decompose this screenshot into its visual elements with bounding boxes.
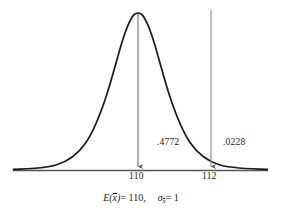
expectation-variable-xbar: x bbox=[113, 192, 117, 203]
caption-standard-error: σx= 1 bbox=[158, 192, 179, 205]
expectation-equals: = 110, bbox=[120, 192, 145, 203]
normal-distribution-figure: .4772 .0228 110 112 E(x)= 110, σx= 1 bbox=[0, 0, 282, 215]
axis-tick-label-mean: 110 bbox=[129, 172, 144, 182]
scan-artifact-mark bbox=[210, 152, 212, 158]
expectation-symbol: E bbox=[103, 192, 109, 203]
caption-expectation: E(x)= 110, bbox=[103, 192, 146, 203]
sigma-subscript-xbar: x bbox=[163, 197, 166, 205]
sigma-equals: = 1 bbox=[166, 192, 179, 203]
figure-caption: E(x)= 110, σx= 1 bbox=[0, 192, 282, 205]
area-probability-right-label: .0228 bbox=[223, 138, 245, 148]
axis-tick-label-upper-bound: 112 bbox=[202, 172, 217, 182]
distribution-curve-svg bbox=[0, 0, 282, 215]
area-probability-left-label: .4772 bbox=[157, 138, 179, 148]
